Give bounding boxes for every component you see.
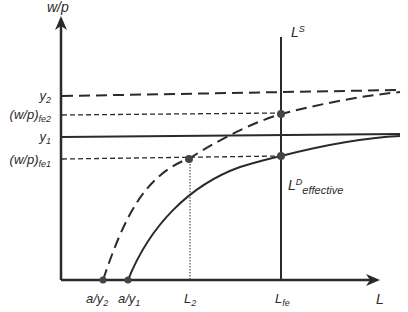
labor-demand-label-sub: effective xyxy=(302,184,343,196)
x-axis-label-text: L xyxy=(376,291,384,307)
labor-supply-label: LS xyxy=(291,25,305,39)
labor-demand-label: LDeffective xyxy=(288,178,343,196)
y-tick-y2: y2 xyxy=(39,89,51,105)
labor-demand-y2-curve xyxy=(103,92,400,280)
y1-line xyxy=(62,134,400,137)
x-axis-label: L xyxy=(376,292,384,306)
y-tick-wp-fe1: (w/p)fe1 xyxy=(10,153,51,169)
y-tick-wp-fe1-sub: fe1 xyxy=(38,159,51,169)
point-a-y2 xyxy=(100,277,107,284)
y-tick-wp-fe2-base: (w/p) xyxy=(10,107,39,122)
y-tick-wp-fe2: (w/p)fe2 xyxy=(10,108,51,124)
y2-line xyxy=(62,90,398,96)
y-tick-wp-fe2-sub: fe2 xyxy=(38,114,51,124)
x-tick-a-y1-sub: 1 xyxy=(135,298,140,308)
point-a-y1 xyxy=(125,277,132,284)
y-tick-wp-fe1-base: (w/p) xyxy=(10,152,39,167)
x-tick-a-y2-base: a/y xyxy=(86,291,103,306)
labor-supply-label-base: L xyxy=(291,24,299,40)
y-axis-label-text: w/p xyxy=(47,0,69,15)
wp-fe1-guide xyxy=(62,156,280,159)
x-tick-a-y2-sub: 2 xyxy=(103,298,108,308)
x-tick-L2: L2 xyxy=(184,292,196,308)
x-tick-a-y2: a/y2 xyxy=(86,292,108,308)
point-Lfe-fe2 xyxy=(277,110,285,118)
x-tick-L2-sub: 2 xyxy=(191,298,196,308)
x-tick-a-y1-base: a/y xyxy=(118,291,135,306)
point-L2-fe1 xyxy=(185,155,193,163)
y-axis-label: w/p xyxy=(47,0,69,14)
x-tick-Lfe-sub: fe xyxy=(282,298,290,308)
y-tick-y1: y1 xyxy=(39,130,51,146)
labor-supply-label-sup: S xyxy=(299,24,305,34)
y-tick-y2-sub: 2 xyxy=(46,95,51,105)
x-tick-Lfe: Lfe xyxy=(275,292,290,308)
wp-fe2-guide xyxy=(62,113,280,115)
y-tick-y1-sub: 1 xyxy=(46,136,51,146)
point-Lfe-fe1 xyxy=(277,152,285,160)
diagram-canvas xyxy=(0,0,408,312)
x-tick-a-y1: a/y1 xyxy=(118,292,140,308)
labor-demand-label-base: L xyxy=(288,177,296,193)
